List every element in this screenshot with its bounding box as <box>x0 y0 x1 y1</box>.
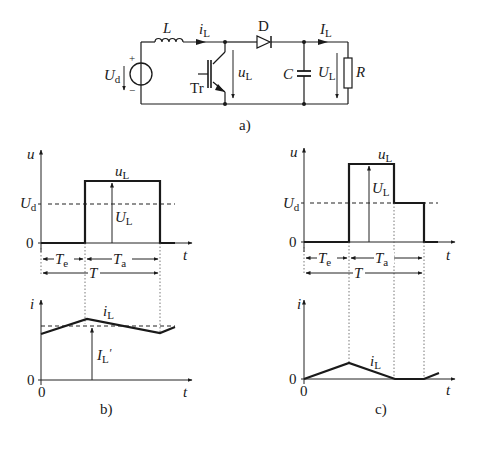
resistor-icon <box>344 58 352 88</box>
svg-text:iL: iL <box>370 353 381 371</box>
circuit-caption: a) <box>239 117 251 134</box>
plot-c-caption: c) <box>375 401 387 418</box>
svg-text:0: 0 <box>289 371 297 387</box>
inductor-current-label: iL <box>199 21 210 39</box>
resistor-label: R <box>355 64 365 80</box>
diode-icon <box>257 36 271 48</box>
inductor-icon <box>155 39 183 42</box>
svg-text:UL: UL <box>115 209 133 227</box>
source-voltage-label: Ud <box>104 67 121 85</box>
svg-text:t: t <box>446 247 451 263</box>
output-current-label: IL <box>319 21 332 39</box>
source-plus: + <box>129 52 135 64</box>
svg-text:i: i <box>30 296 34 312</box>
svg-text:uL: uL <box>378 146 393 164</box>
svg-text:t: t <box>446 382 451 398</box>
ul-waveform <box>41 181 175 243</box>
svg-text:0: 0 <box>27 372 35 388</box>
circuit-schematic: + − Ud L iL Tr uL <box>104 18 365 134</box>
svg-text:0: 0 <box>38 384 46 400</box>
svg-text:u: u <box>290 144 298 160</box>
svg-text:i: i <box>297 296 301 312</box>
svg-text:u: u <box>27 146 35 162</box>
svg-text:uL: uL <box>115 163 130 181</box>
svg-text:Ud: Ud <box>283 195 300 213</box>
inductor-label: L <box>162 20 171 36</box>
svg-text:t: t <box>183 247 188 263</box>
plot-c-current: i t 0 0 iL c) <box>289 296 455 418</box>
diode-label: D <box>258 18 269 34</box>
switch-voltage-label: uL <box>238 64 253 82</box>
current-arrow-icon <box>196 39 206 45</box>
svg-text:0: 0 <box>26 235 34 251</box>
source-minus: − <box>129 84 135 96</box>
svg-text:t: t <box>183 384 188 400</box>
svg-text:0: 0 <box>289 234 297 250</box>
plot-c-voltage: u t 0 Ud UL uL Te Ta T <box>283 144 455 378</box>
output-voltage-label: UL <box>318 64 336 82</box>
svg-text:Ud: Ud <box>20 195 37 213</box>
svg-text:UL: UL <box>372 180 390 198</box>
plot-b-current: i t 0 0 IL′ iL b) <box>27 296 192 418</box>
output-current-arrow-icon <box>318 39 328 45</box>
boost-converter-diagram: + − Ud L iL Tr uL <box>0 0 480 449</box>
transistor-label: Tr <box>190 80 204 96</box>
capacitor-label: C <box>283 66 294 82</box>
svg-text:iL: iL <box>103 303 114 321</box>
plot-b-caption: b) <box>100 401 113 418</box>
svg-text:0: 0 <box>300 383 308 399</box>
svg-text:IL′: IL′ <box>96 346 112 365</box>
